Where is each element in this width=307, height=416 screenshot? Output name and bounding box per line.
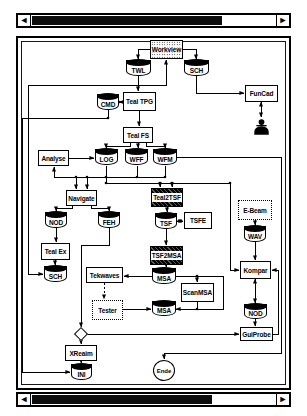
node-analyse[interactable]: Analyse — [38, 150, 69, 166]
node-label: ScanMSA — [183, 289, 212, 296]
node-navigate[interactable]: Navigate — [66, 190, 97, 206]
node-msa-1[interactable]: MSA — [152, 268, 176, 284]
node-teal-ex[interactable]: Teal Ex — [41, 243, 70, 260]
decision-diamond — [74, 327, 88, 341]
node-wav[interactable]: WAV — [244, 226, 266, 242]
node-label: CMD — [101, 101, 116, 108]
node-label: Teal2TSF — [153, 194, 181, 201]
node-nod-right[interactable]: NOD — [244, 304, 267, 319]
node-log[interactable]: LOG — [95, 149, 118, 165]
node-wfm[interactable]: WFM — [153, 149, 177, 165]
node-msa-2[interactable]: MSA — [152, 301, 176, 316]
diagram-nodes: WorkviewTWLSCHFunCadCMDTeal TPGTeal FSAn… — [0, 0, 307, 416]
node-label: LOG — [100, 156, 114, 163]
scroll-left-icon: ◄ — [20, 395, 29, 404]
node-label: TSFE — [190, 217, 206, 224]
user-icon — [253, 118, 270, 136]
node-label: MSA — [157, 307, 171, 314]
node-label: GuiProbe — [242, 331, 270, 338]
node-label: E-Beam — [243, 207, 267, 214]
bottom-scrollbar-thumb[interactable] — [32, 395, 212, 404]
node-xreaim[interactable]: XReaim — [65, 345, 97, 361]
node-label: Ende — [157, 368, 171, 374]
node-tsf[interactable]: TSF — [155, 213, 177, 229]
node-label: WFM — [157, 156, 172, 163]
node-label: TSF — [160, 220, 172, 227]
node-label: Kompar — [244, 267, 268, 274]
node-tekwaves[interactable]: Tekwaves — [86, 267, 123, 283]
node-label: WAV — [248, 233, 262, 240]
node-tsfe[interactable]: TSFE — [184, 212, 212, 229]
node-workview[interactable]: Workview — [150, 40, 183, 59]
node-label: SCH — [190, 67, 203, 74]
node-label: FEH — [103, 219, 116, 226]
node-label: FunCad — [250, 90, 274, 97]
node-label: Teal TPG — [126, 98, 153, 105]
node-label: NOD — [248, 310, 262, 317]
node-label: Navigate — [68, 195, 94, 202]
node-scanmsa[interactable]: ScanMSA — [181, 283, 214, 302]
scroll-right-icon: ► — [279, 395, 288, 404]
node-label: NOD — [49, 219, 63, 226]
node-label: XReaim — [69, 350, 92, 357]
node-sch-left[interactable]: SCH — [44, 266, 67, 282]
node-label: Tekwaves — [90, 272, 119, 279]
node-guiprobe[interactable]: GuiProbe — [240, 327, 273, 341]
node-label: MSA — [157, 275, 171, 282]
node-label: Teal FS — [127, 132, 149, 139]
node-wff[interactable]: WFF — [125, 149, 148, 165]
node-e-beam[interactable]: E-Beam — [238, 200, 272, 220]
node-label: SCH — [49, 273, 62, 280]
node-label: Analyse — [41, 155, 65, 162]
application-window: ◄ ► WorkviewTWLSCHFunCadCMDTeal TPGTeal … — [0, 0, 307, 416]
node-label: TWL — [132, 67, 146, 74]
node-cmd[interactable]: CMD — [97, 94, 119, 110]
node-label: Tester — [98, 307, 116, 314]
node-user — [253, 118, 270, 136]
node-teal-tpg[interactable]: Teal TPG — [123, 92, 156, 111]
node-label: WFF — [130, 156, 144, 163]
node-teal-fs[interactable]: Teal FS — [123, 127, 153, 143]
node-kompar[interactable]: Kompar — [240, 261, 271, 279]
node-ende[interactable]: Ende — [153, 360, 175, 381]
node-nod-left[interactable]: NOD — [45, 212, 67, 228]
node-twl[interactable]: TWL — [126, 60, 151, 76]
node-tsf2msa[interactable]: TSF2MSA — [150, 246, 183, 265]
node-ini[interactable]: INI — [71, 364, 92, 380]
node-diamond[interactable] — [75, 328, 87, 340]
node-label: INI — [77, 371, 85, 378]
node-funcad[interactable]: FunCad — [245, 85, 278, 102]
node-sch-top[interactable]: SCH — [184, 60, 209, 76]
node-label: TSF2MSA — [152, 252, 182, 259]
bottom-scrollbar[interactable]: ◄ ► — [16, 392, 291, 407]
node-feh[interactable]: FEH — [98, 212, 120, 228]
node-label: Workview — [151, 46, 182, 53]
node-label: Teal Ex — [45, 248, 67, 255]
node-teal2tsf[interactable]: Teal2TSF — [151, 188, 183, 207]
node-tester[interactable]: Tester — [92, 300, 123, 320]
scroll-left-button-bottom[interactable]: ◄ — [18, 394, 31, 405]
bottom-scrollbar-track[interactable] — [32, 395, 275, 404]
scroll-right-button-bottom[interactable]: ► — [276, 394, 289, 405]
